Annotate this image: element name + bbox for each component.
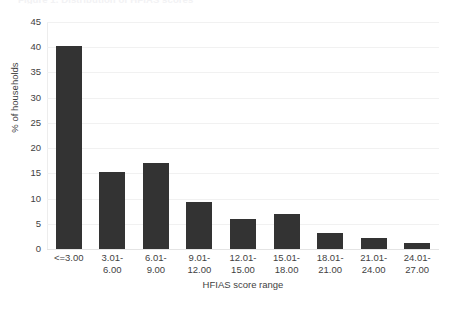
bar-slot xyxy=(395,22,439,249)
x-tick-label: 3.01- 6.00 xyxy=(91,252,135,275)
bar-slot xyxy=(308,22,352,249)
bar[interactable] xyxy=(186,202,212,249)
bar[interactable] xyxy=(230,219,256,249)
x-tick-label: 24.01- 27.00 xyxy=(395,252,439,275)
x-axis-title: HFIAS score range xyxy=(47,279,439,290)
bar-slot xyxy=(265,22,309,249)
bar-slot xyxy=(91,22,135,249)
y-axis-title: % of households xyxy=(9,48,20,148)
plot-area xyxy=(47,22,439,249)
y-tick-label: 15 xyxy=(7,169,41,179)
bar[interactable] xyxy=(274,214,300,249)
bar-series xyxy=(47,22,439,249)
y-tick-label: 5 xyxy=(7,219,41,229)
bar[interactable] xyxy=(56,46,82,249)
bar[interactable] xyxy=(143,163,169,249)
bar-slot xyxy=(221,22,265,249)
x-tick-label: 15.01- 18.00 xyxy=(265,252,309,275)
bar-slot xyxy=(352,22,396,249)
x-tick-label: 6.01- 9.00 xyxy=(134,252,178,275)
bar[interactable] xyxy=(361,238,387,249)
bar[interactable] xyxy=(99,172,125,249)
chart-figure: Figure 1. Distribution of HFIAS scores 0… xyxy=(0,0,457,309)
bar-slot xyxy=(47,22,91,249)
bar-slot xyxy=(134,22,178,249)
y-tick-label: 10 xyxy=(7,194,41,204)
bar[interactable] xyxy=(404,243,430,249)
x-axis-tick-labels: <=3.003.01- 6.006.01- 9.009.01- 12.0012.… xyxy=(47,252,439,280)
y-axis-tick-labels: 051015202530354045 xyxy=(0,22,41,249)
x-tick-label: <=3.00 xyxy=(47,252,91,264)
bar-slot xyxy=(178,22,222,249)
y-tick-label: 45 xyxy=(7,17,41,27)
gridline xyxy=(47,249,439,250)
bar[interactable] xyxy=(317,233,343,249)
x-tick-label: 9.01- 12.00 xyxy=(178,252,222,275)
y-tick-label: 0 xyxy=(7,244,41,254)
x-tick-label: 18.01- 21.00 xyxy=(308,252,352,275)
chart-title: Figure 1. Distribution of HFIAS scores xyxy=(18,0,438,4)
x-tick-label: 21.01- 24.00 xyxy=(352,252,396,275)
x-tick-label: 12.01- 15.00 xyxy=(221,252,265,275)
